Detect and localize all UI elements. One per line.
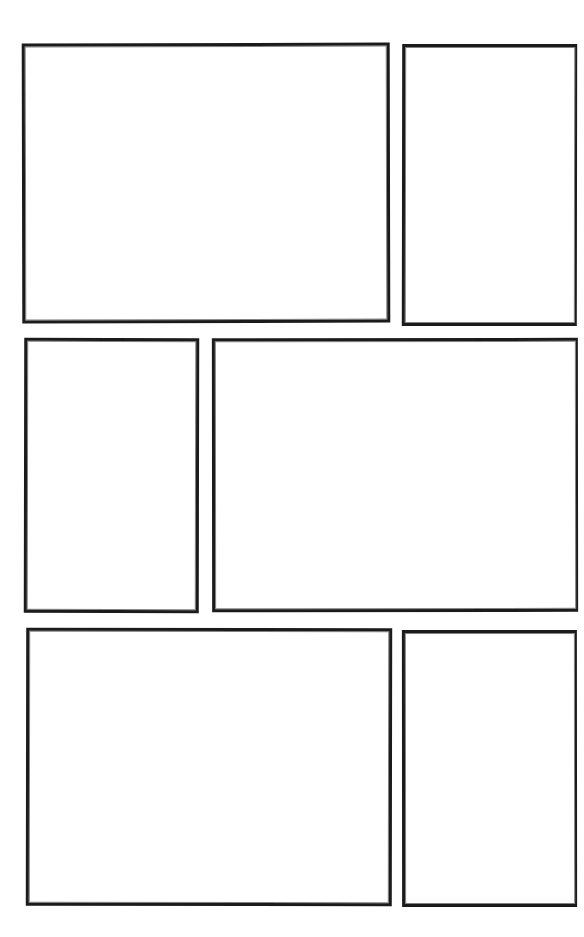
comic-panel-1[interactable] — [22, 43, 391, 324]
comic-panel-5-content — [29, 631, 389, 904]
comic-panel-6[interactable] — [402, 630, 577, 907]
comic-panel-4-content — [215, 341, 576, 609]
comic-panel-3-content — [27, 341, 196, 610]
comic-panel-4[interactable] — [212, 338, 578, 612]
comic-panel-6-content — [405, 633, 575, 904]
comic-panel-5[interactable] — [26, 628, 392, 907]
comic-panel-3[interactable] — [24, 338, 199, 613]
comic-page — [0, 0, 584, 937]
comic-panel-2[interactable] — [402, 44, 577, 326]
comic-panel-2-content — [405, 47, 575, 323]
comic-panel-1-content — [25, 46, 388, 321]
